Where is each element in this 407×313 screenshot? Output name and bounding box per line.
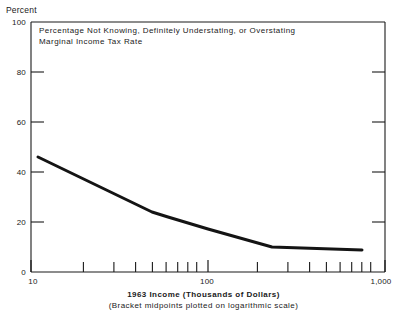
x-axis-major-ticks — [31, 260, 385, 272]
x-axis-minor-ticks — [83, 262, 370, 272]
y-axis-ticks-right — [372, 72, 385, 222]
data-series-line — [38, 157, 362, 250]
chart-figure: Percent Percentage Not Knowing, Definite… — [0, 0, 407, 313]
y-axis-ticks-left — [31, 72, 44, 222]
chart-plot-area — [0, 0, 407, 313]
axis-frame — [31, 22, 385, 272]
